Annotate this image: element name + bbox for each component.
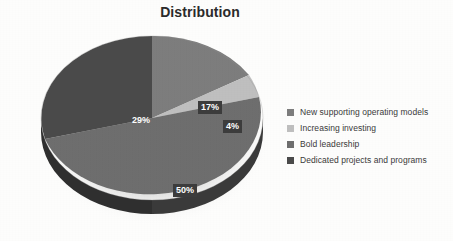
legend-swatch-icon <box>287 125 294 132</box>
legend-item-label: Increasing investing <box>300 123 376 133</box>
legend-item-new-supporting-operating-models[interactable]: New supporting operating models <box>287 104 452 120</box>
legend-item-label: Bold leadership <box>300 139 359 149</box>
slice-value-label-new-supporting-operating-models: 17% <box>198 101 222 114</box>
legend-swatch-icon <box>287 157 294 164</box>
chart-title: Distribution <box>0 4 400 20</box>
pie-chart-graphic: 17% 4% 50% 29% <box>36 30 276 225</box>
legend-item-bold-leadership[interactable]: Bold leadership <box>287 136 452 152</box>
legend-item-label: Dedicated projects and programs <box>300 155 427 165</box>
legend-swatch-icon <box>287 109 294 116</box>
slice-value-label-increasing-investing: 4% <box>223 120 242 133</box>
chart-legend: New supporting operating models Increasi… <box>287 104 452 168</box>
pie-chart-figure: Distribution <box>0 0 453 241</box>
slice-value-label-dedicated-projects-and-programs: 29% <box>129 114 153 127</box>
legend-swatch-icon <box>287 141 294 148</box>
legend-item-label: New supporting operating models <box>300 107 428 117</box>
legend-item-dedicated-projects-and-programs[interactable]: Dedicated projects and programs <box>287 152 452 168</box>
legend-item-increasing-investing[interactable]: Increasing investing <box>287 120 452 136</box>
slice-value-label-bold-leadership: 50% <box>173 184 197 197</box>
